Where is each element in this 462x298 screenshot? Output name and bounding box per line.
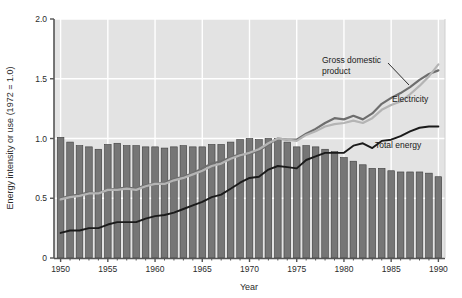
x-tick-label: 1960 bbox=[146, 264, 165, 274]
y-tick-label: 0 bbox=[42, 253, 47, 263]
bar bbox=[76, 146, 83, 258]
bar bbox=[369, 168, 376, 258]
bar bbox=[133, 146, 140, 258]
bar bbox=[237, 140, 244, 258]
bar bbox=[123, 146, 130, 258]
bar bbox=[331, 152, 338, 258]
bar bbox=[208, 144, 215, 258]
bar bbox=[416, 172, 423, 258]
bar bbox=[152, 147, 159, 258]
bar bbox=[67, 142, 74, 258]
bar bbox=[426, 173, 433, 258]
bar bbox=[407, 172, 414, 258]
bar bbox=[142, 147, 149, 258]
bar bbox=[114, 143, 121, 258]
x-tick-label: 1950 bbox=[51, 264, 70, 274]
annotation-gdp-label-line2: product bbox=[322, 66, 351, 76]
bar bbox=[180, 146, 187, 258]
bar bbox=[350, 161, 357, 258]
x-axis-title: Year bbox=[240, 282, 258, 292]
bar bbox=[105, 144, 112, 258]
x-tick-label: 1970 bbox=[240, 264, 259, 274]
x-tick-label: 1955 bbox=[98, 264, 117, 274]
bar bbox=[293, 147, 300, 258]
annotation-electricity-label: Electricity bbox=[392, 94, 429, 104]
bar bbox=[312, 147, 319, 258]
x-tick-label: 1975 bbox=[287, 264, 306, 274]
annotation-gdp-label-line1: Gross domestic bbox=[322, 55, 382, 65]
y-axis-title: Energy intensity or use (1972 = 1.0) bbox=[5, 67, 15, 210]
bar bbox=[360, 165, 367, 258]
bar bbox=[256, 140, 263, 258]
bar bbox=[378, 168, 385, 258]
bar bbox=[86, 147, 93, 258]
x-tick-label: 1990 bbox=[429, 264, 448, 274]
bar bbox=[265, 139, 272, 259]
energy-intensity-chart: 00.51.01.52.0 19501955196019651970197519… bbox=[0, 0, 462, 298]
x-tick-label: 1985 bbox=[382, 264, 401, 274]
bar bbox=[171, 147, 178, 258]
bar bbox=[341, 158, 348, 258]
y-tick-label: 0.5 bbox=[35, 193, 47, 203]
bar bbox=[95, 149, 102, 258]
annotation-total-energy-label: Total energy bbox=[375, 140, 422, 150]
bar bbox=[275, 139, 282, 259]
x-tick-label: 1965 bbox=[193, 264, 212, 274]
bar bbox=[284, 142, 291, 258]
bar bbox=[322, 149, 329, 258]
chart-figure: 00.51.01.52.0 19501955196019651970197519… bbox=[0, 0, 462, 298]
y-tick-label: 1.5 bbox=[35, 74, 47, 84]
bar bbox=[190, 147, 197, 258]
bar bbox=[388, 171, 395, 258]
bar bbox=[161, 148, 168, 258]
bar bbox=[246, 139, 253, 259]
bar bbox=[435, 177, 442, 258]
y-tick-label: 2.0 bbox=[35, 14, 47, 24]
x-tick-label: 1980 bbox=[334, 264, 353, 274]
bar bbox=[397, 172, 404, 258]
y-tick-label: 1.0 bbox=[35, 134, 47, 144]
